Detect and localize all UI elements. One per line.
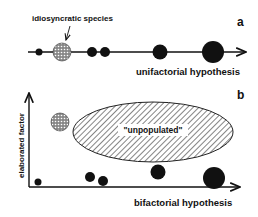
idiosyncratic-species-dot: [53, 43, 71, 61]
idiosyncratic-species-dot: [51, 113, 69, 131]
species-dot: [36, 49, 43, 56]
species-dot: [35, 179, 42, 186]
panel-a-letter: a: [237, 15, 244, 29]
species-dot: [202, 41, 224, 63]
y-axis-label: elaborated factor: [17, 113, 26, 178]
diagram: a idiosyncratic species unifactorial hyp…: [0, 0, 258, 217]
species-dot: [87, 47, 97, 57]
annotation-arrow-icon: [66, 26, 70, 40]
idiosyncratic-annotation: idiosyncratic species: [32, 14, 113, 23]
panel-b-letter: b: [237, 88, 244, 102]
unifactorial-label: unifactorial hypothesis: [136, 66, 240, 77]
species-dot: [151, 165, 166, 180]
species-dot: [100, 47, 110, 57]
panel-a: a idiosyncratic species unifactorial hyp…: [28, 14, 246, 77]
bifactorial-label: bifactorial hypothesis: [134, 197, 232, 208]
unpopulated-label: "unpopulated": [123, 125, 182, 135]
panel-b: b elaborated factor "unpopulated" bifact…: [17, 88, 244, 208]
species-dot: [85, 172, 95, 182]
species-dot: [153, 45, 168, 60]
species-dot: [98, 176, 108, 186]
species-dot: [203, 167, 225, 189]
